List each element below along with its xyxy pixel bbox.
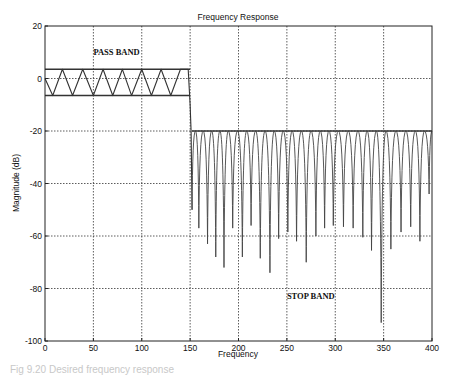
passband-ripple-line (45, 69, 192, 209)
figure-caption: Fig 9.20 Desired frequency response (10, 364, 174, 375)
x-tick-label: 250 (280, 343, 294, 353)
x-tick-label: 400 (425, 343, 439, 353)
y-tick-label: -40 (30, 179, 43, 189)
y-tick-label: -100 (25, 336, 42, 346)
y-tick-label: 0 (37, 74, 42, 84)
stopband-label: STOP BAND (287, 291, 335, 301)
y-tick-label: -20 (30, 126, 43, 136)
x-tick-label: 50 (89, 343, 99, 353)
y-tick-label: 20 (33, 21, 43, 31)
x-axis-label: Frequency (218, 349, 259, 359)
passband-label: PASS BAND (93, 47, 139, 57)
y-tick-label: -60 (30, 231, 43, 241)
chart-title: Frequency Response (198, 12, 279, 22)
y-tick-label: -80 (30, 284, 43, 294)
grid (45, 26, 432, 341)
x-tick-label: 150 (183, 343, 197, 353)
x-tick-label: 0 (43, 343, 48, 353)
x-tick-label: 100 (135, 343, 149, 353)
annotations: PASS BANDSTOP BAND (93, 47, 334, 301)
x-tick-label: 350 (377, 343, 391, 353)
x-tick-label: 300 (328, 343, 342, 353)
y-axis-label: Magnitude (dB) (11, 154, 21, 212)
